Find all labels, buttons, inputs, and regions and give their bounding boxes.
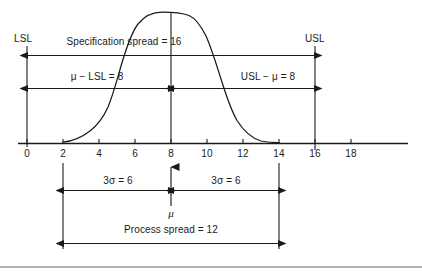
lsl-label: LSL	[14, 33, 32, 44]
axis-tick-label: 18	[345, 148, 356, 159]
specification-spread-label: Specification spread = 16	[66, 36, 181, 47]
axis-tick-label: 8	[168, 148, 174, 159]
axis-tick-label: 6	[132, 148, 138, 159]
process-spread-label: Process spread = 12	[124, 224, 218, 235]
three-sigma-left-label: 3σ = 6	[103, 175, 132, 186]
axis-tick-label: 4	[96, 148, 102, 159]
axis-tick-label: 10	[201, 148, 212, 159]
usl-minus-mu-label: USL − μ = 8	[241, 71, 295, 82]
mu-minus-lsl-label: μ − LSL = 8	[71, 71, 124, 82]
usl-label: USL	[305, 33, 325, 44]
axis-tick-label: 14	[273, 148, 284, 159]
axis-tick-label: 2	[60, 148, 66, 159]
mean-symbol-label: μ	[168, 208, 174, 219]
axis-tick-label: 0	[24, 148, 30, 159]
process-capability-figure: LSL USL Specification spread = 16 μ − LS…	[0, 0, 422, 272]
axis-tick-label: 16	[309, 148, 320, 159]
x-axis	[18, 139, 408, 144]
axis-tick-label: 12	[237, 148, 248, 159]
three-sigma-right-label: 3σ = 6	[211, 175, 240, 186]
